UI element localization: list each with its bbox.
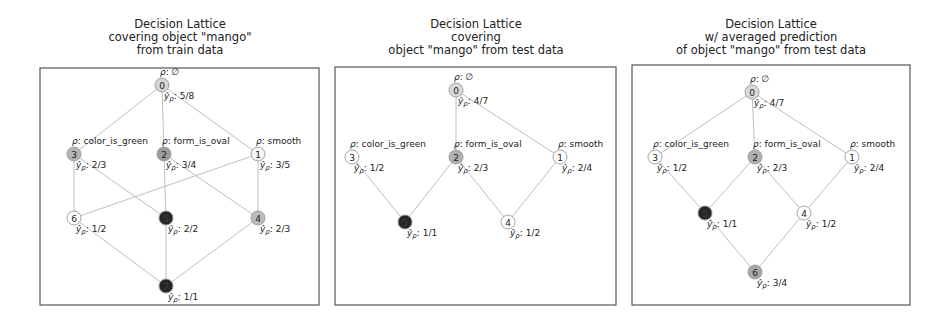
node-premise: ρ: smooth bbox=[256, 136, 301, 146]
node-id: 7 bbox=[163, 282, 169, 292]
node-prediction: ŷρ: 2/3 bbox=[457, 163, 488, 175]
node-id: 1 bbox=[255, 150, 261, 160]
lattice-edge bbox=[804, 157, 852, 213]
node-id: 2 bbox=[161, 150, 167, 160]
lattice-node[interactable]: 6ŷρ: 1/2 bbox=[67, 211, 106, 236]
lattice-node[interactable]: 3ρ: color_is_greenŷρ: 1/2 bbox=[648, 139, 729, 175]
node-id: 0 bbox=[749, 88, 755, 98]
node-prediction: ŷρ: 3/4 bbox=[165, 160, 196, 172]
panel-frame bbox=[40, 68, 319, 305]
lattice-edge bbox=[755, 213, 804, 272]
node-premise: ρ: ∅ bbox=[454, 72, 473, 82]
node-prediction: ŷρ: 3/5 bbox=[259, 160, 290, 172]
lattice-node[interactable]: 5ŷρ: 1/1 bbox=[398, 215, 437, 240]
node-prediction: ŷρ: 1/2 bbox=[509, 228, 540, 240]
lattice-panel: 0ρ: ∅ŷρ: 4/71ρ: smoothŷρ: 2/42ρ: form_is… bbox=[335, 67, 616, 305]
lattice-edge bbox=[405, 157, 456, 222]
lattice-node[interactable]: 0ρ: ∅ŷρ: 5/8 bbox=[155, 67, 194, 103]
lattice-node[interactable]: 0ρ: ∅ŷρ: 4/7 bbox=[745, 74, 784, 110]
node-premise: ρ: smooth bbox=[558, 139, 603, 149]
node-id: 3 bbox=[349, 153, 355, 163]
node-id: 3 bbox=[71, 150, 77, 160]
node-prediction: ŷρ: 2/3 bbox=[756, 163, 787, 175]
lattice-node[interactable]: 7ŷρ: 1/1 bbox=[159, 279, 198, 304]
node-premise: ρ: color_is_green bbox=[72, 136, 148, 146]
node-prediction: ŷρ: 2/4 bbox=[561, 163, 592, 175]
lattice-figure: 0ρ: ∅ŷρ: 5/81ρ: smoothŷρ: 3/52ρ: form_is… bbox=[0, 0, 945, 326]
node-premise: ρ: form_is_oval bbox=[162, 136, 230, 146]
lattice-edge bbox=[508, 157, 560, 222]
node-prediction: ŷρ: 1/2 bbox=[805, 219, 836, 231]
node-id: 6 bbox=[752, 268, 758, 278]
node-prediction: ŷρ: 2/3 bbox=[259, 224, 290, 236]
node-id: 4 bbox=[505, 218, 511, 228]
lattice-node[interactable]: 1ρ: smoothŷρ: 2/4 bbox=[845, 139, 895, 175]
node-id: 2 bbox=[453, 153, 459, 163]
lattice-panel: 0ρ: ∅ŷρ: 5/81ρ: smoothŷρ: 3/52ρ: form_is… bbox=[40, 67, 319, 305]
lattice-node[interactable]: 5ŷρ: 1/1 bbox=[698, 206, 737, 231]
node-premise: ρ: form_is_oval bbox=[753, 139, 821, 149]
lattice-node[interactable]: 2ρ: form_is_ovalŷρ: 2/3 bbox=[748, 139, 821, 175]
node-premise: ρ: color_is_green bbox=[653, 139, 729, 149]
lattice-node[interactable]: 2ρ: form_is_ovalŷρ: 3/4 bbox=[157, 136, 230, 172]
lattice-node[interactable]: 1ρ: smoothŷρ: 2/4 bbox=[553, 139, 603, 175]
node-prediction: ŷρ: 1/2 bbox=[75, 224, 106, 236]
node-prediction: ŷρ: 2/2 bbox=[167, 224, 198, 236]
node-id: 4 bbox=[255, 214, 261, 224]
node-id: 3 bbox=[652, 153, 658, 163]
node-prediction: ŷρ: 2/4 bbox=[853, 163, 884, 175]
lattice-node[interactable]: 1ρ: smoothŷρ: 3/5 bbox=[251, 136, 301, 172]
node-id: 2 bbox=[752, 153, 758, 163]
node-id: 1 bbox=[849, 153, 855, 163]
node-premise: ρ: ∅ bbox=[750, 74, 769, 84]
node-prediction: ŷρ: 3/4 bbox=[756, 278, 787, 290]
node-prediction: ŷρ: 4/7 bbox=[753, 98, 784, 110]
node-prediction: ŷρ: 1/2 bbox=[353, 163, 384, 175]
node-id: 5 bbox=[163, 214, 169, 224]
lattice-node[interactable]: 4ŷρ: 1/2 bbox=[501, 215, 540, 240]
node-premise: ρ: color_is_green bbox=[350, 139, 426, 149]
lattice-node[interactable]: 4ŷρ: 2/3 bbox=[251, 211, 290, 236]
node-prediction: ŷρ: 5/8 bbox=[163, 91, 194, 103]
node-prediction: ŷρ: 1/1 bbox=[406, 228, 437, 240]
lattice-node[interactable]: 3ρ: color_is_greenŷρ: 2/3 bbox=[67, 136, 148, 172]
node-id: 5 bbox=[702, 209, 708, 219]
node-id: 6 bbox=[71, 214, 77, 224]
lattice-node[interactable]: 4ŷρ: 1/2 bbox=[797, 206, 836, 231]
node-prediction: ŷρ: 1/1 bbox=[706, 219, 737, 231]
lattice-node[interactable]: 2ρ: form_is_ovalŷρ: 2/3 bbox=[449, 139, 522, 175]
node-prediction: ŷρ: 1/2 bbox=[656, 163, 687, 175]
lattice-node[interactable]: 5ŷρ: 2/2 bbox=[159, 211, 198, 236]
lattice-edge bbox=[705, 157, 755, 213]
node-id: 0 bbox=[453, 86, 459, 96]
node-prediction: ŷρ: 2/3 bbox=[75, 160, 106, 172]
node-prediction: ŷρ: 4/7 bbox=[457, 96, 488, 108]
node-premise: ρ: form_is_oval bbox=[454, 139, 522, 149]
node-premise: ρ: ∅ bbox=[160, 67, 179, 77]
node-id: 4 bbox=[801, 209, 807, 219]
node-id: 1 bbox=[557, 153, 563, 163]
lattice-node[interactable]: 6ŷρ: 3/4 bbox=[748, 265, 787, 290]
node-prediction: ŷρ: 1/1 bbox=[167, 292, 198, 304]
node-id: 0 bbox=[159, 81, 165, 91]
lattice-panel: 0ρ: ∅ŷρ: 4/71ρ: smoothŷρ: 2/42ρ: form_is… bbox=[632, 65, 910, 305]
node-premise: ρ: smooth bbox=[850, 139, 895, 149]
lattice-node[interactable]: 0ρ: ∅ŷρ: 4/7 bbox=[449, 72, 488, 108]
node-id: 5 bbox=[402, 218, 408, 228]
lattice-node[interactable]: 3ρ: color_is_greenŷρ: 1/2 bbox=[345, 139, 426, 175]
